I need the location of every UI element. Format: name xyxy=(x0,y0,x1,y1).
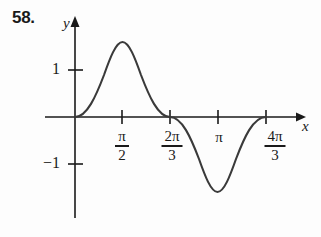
y-tick-label-1: 1 xyxy=(34,60,60,78)
figure-container: 58. y x 1 −1 π xyxy=(0,0,321,237)
x-tick-label-2pi-over-3: 2π 3 xyxy=(162,129,183,163)
fraction-denominator: 2 xyxy=(115,147,129,163)
graph-canvas xyxy=(0,0,321,237)
y-axis-label: y xyxy=(63,15,70,32)
fraction-numerator: π xyxy=(115,129,129,145)
x-tick-label-pi: π xyxy=(215,129,223,146)
fraction-numerator: 2π xyxy=(162,129,183,145)
y-tick-label-minus-1: −1 xyxy=(28,154,60,172)
fraction-denominator: 3 xyxy=(162,147,183,163)
fraction-numerator: 4π xyxy=(265,129,286,145)
x-tick-label-4pi-over-3: 4π 3 xyxy=(265,129,286,163)
fraction-denominator: 3 xyxy=(265,147,286,163)
x-tick-label-pi-over-2: π 2 xyxy=(115,129,129,163)
x-axis-label: x xyxy=(302,118,309,135)
